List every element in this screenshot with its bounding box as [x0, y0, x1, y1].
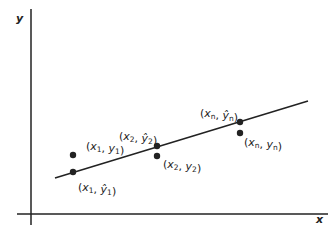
- observed-point-label: (xn, yn): [244, 136, 282, 153]
- fitted-point-dot: [70, 169, 76, 175]
- fitted-point-label: (xn, ŷn): [200, 107, 238, 124]
- fitted-point-label: (x1, ŷ1): [78, 181, 116, 198]
- data-points: (x1, y1)(x1, ŷ1)(x2, ŷ2)(x2, y2)(xn, ŷn)…: [70, 107, 282, 198]
- observed-point-dot: [70, 152, 76, 158]
- x-axis-label: x: [315, 213, 324, 226]
- fitted-point-label: (x2, ŷ2): [119, 130, 157, 147]
- regression-diagram: y x (x1, y1)(x1, ŷ1)(x2, ŷ2)(x2, y2)(xn,…: [0, 0, 336, 231]
- y-axis-label: y: [16, 12, 24, 25]
- observed-point-dot: [154, 153, 160, 159]
- observed-point-label: (x2, y2): [163, 158, 201, 175]
- observed-point-dot: [237, 130, 243, 136]
